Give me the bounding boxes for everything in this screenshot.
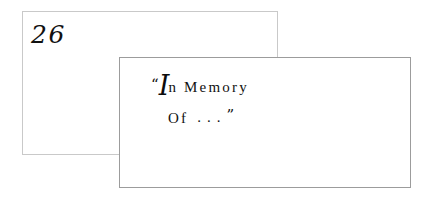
scanned-page-canvas: 26 “In Memory Of ...” [0, 0, 427, 200]
caption-word-memory: Memory [184, 79, 249, 95]
page-number: 26 [31, 22, 66, 47]
caption-ellipsis: ... [197, 109, 226, 125]
caption-word-in-remainder: n [168, 79, 178, 95]
memorial-caption: “In Memory Of ...” [122, 70, 278, 131]
caption-word-of: Of [168, 109, 188, 125]
caption-line-1: “In Memory [122, 70, 278, 101]
opening-quote-mark: “ [151, 75, 159, 93]
closing-quote-mark: ” [226, 106, 234, 124]
caption-line-2: Of ...” [122, 101, 278, 132]
